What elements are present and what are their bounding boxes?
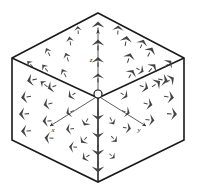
origin-marker <box>94 90 102 98</box>
arrow-shaft <box>97 145 98 150</box>
vector-field-figure: xyz <box>0 0 197 196</box>
vector-field-canvas: xyz <box>0 0 197 196</box>
arrow-shaft <box>97 162 98 167</box>
arrow-shaft <box>97 110 98 115</box>
arrow-shaft <box>97 128 98 133</box>
arrow-shaft <box>26 130 31 131</box>
axis-label-z: z <box>89 56 93 64</box>
